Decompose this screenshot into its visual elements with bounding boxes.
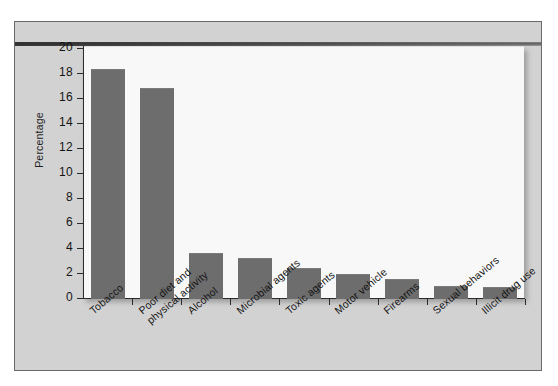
y-axis-tick-label: 8: [66, 190, 73, 204]
y-axis-tick-mark: [77, 198, 83, 199]
y-axis-line: [83, 46, 84, 299]
y-axis-tick-mark: [77, 123, 83, 124]
figure-root: Percentage 02468101214161820 TobaccoPoor…: [0, 0, 558, 386]
bar: [91, 69, 125, 299]
y-axis-tick-label: 16: [59, 90, 73, 104]
y-axis-tick-label: 10: [59, 165, 73, 179]
x-axis-tick-mark: [279, 299, 280, 305]
bar: [140, 88, 174, 299]
y-axis-tick-label: 20: [59, 40, 73, 54]
x-axis-tick-mark: [525, 299, 526, 305]
y-axis-tick-label: 12: [59, 140, 73, 154]
x-axis-tick-mark: [132, 299, 133, 305]
y-axis-tick-label: 6: [66, 215, 73, 229]
y-axis-tick-mark: [77, 98, 83, 99]
figure-frame: Percentage 02468101214161820 TobaccoPoor…: [14, 21, 542, 371]
x-axis-tick-mark: [329, 299, 330, 305]
y-axis-tick-mark: [77, 298, 83, 299]
x-axis-tick-mark: [427, 299, 428, 305]
y-axis-title: Percentage: [33, 80, 45, 200]
y-axis-tick-label: 18: [59, 65, 73, 79]
x-axis-tick-mark: [476, 299, 477, 305]
y-axis-tick-mark: [77, 148, 83, 149]
x-axis-tick-mark: [378, 299, 379, 305]
y-axis-tick-mark: [77, 73, 83, 74]
y-axis-tick-label: 4: [66, 240, 73, 254]
y-axis-tick-mark: [77, 248, 83, 249]
y-axis-tick-mark: [77, 173, 83, 174]
y-axis-tick-label: 14: [59, 115, 73, 129]
y-axis-tick-mark: [77, 223, 83, 224]
y-axis-tick-label: 2: [66, 265, 73, 279]
y-axis-tick-label: 0: [66, 290, 73, 304]
x-axis-tick-mark: [230, 299, 231, 305]
y-axis-tick-mark: [77, 48, 83, 49]
y-axis-tick-mark: [77, 273, 83, 274]
